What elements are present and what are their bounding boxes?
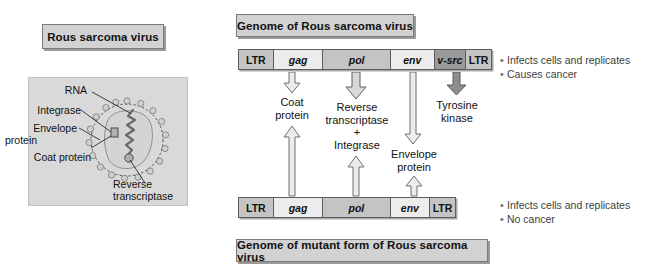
- pol-line2: transcriptase: [318, 114, 396, 127]
- virus-title-plaque: Rous sarcoma virus: [42, 24, 164, 49]
- src-line2: kinase: [426, 112, 488, 125]
- virion-label-envelope-protein-line2: protein: [5, 134, 77, 146]
- bullet-dot-icon: •: [500, 68, 507, 82]
- genome-segment-ltr: LTR: [239, 50, 274, 69]
- bullet-text: Infects cells and replicates: [507, 199, 630, 211]
- virion-label-rna: RNA: [27, 84, 87, 96]
- genome-segment-gag: gag: [274, 198, 323, 217]
- bullet-item: •Causes cancer: [500, 68, 630, 82]
- genome-segment-ltr: LTR: [430, 198, 455, 217]
- product-label-envelope-protein: Envelope protein: [383, 148, 445, 173]
- env-line1: Envelope: [383, 148, 445, 161]
- product-label-reverse-transcriptase: Reverse transcriptase + Integrase: [318, 101, 396, 151]
- coat-line1: Coat: [262, 96, 322, 109]
- arrow-down-pol: [345, 72, 367, 100]
- pol-line3: +: [318, 126, 396, 139]
- mutant-genome-title-plaque: Genome of mutant form of Rous sarcoma vi…: [236, 239, 488, 262]
- genome-segment-v-src: v-src: [435, 50, 467, 69]
- reverse-transcriptase-icon: [125, 154, 133, 162]
- virion-label-reverse-transcriptase-line2: transcriptase: [113, 190, 193, 202]
- env-line2: protein: [383, 161, 445, 174]
- mutant-genome-title-text: Genome of mutant form of Rous sarcoma vi…: [237, 239, 487, 263]
- product-label-tyrosine-kinase: Tyrosine kinase: [426, 99, 488, 124]
- pol-line1: Reverse: [318, 101, 396, 114]
- bullets-mutant: •Infects cells and replicates•No cancer: [500, 199, 630, 226]
- product-label-coat-protein: Coat protein: [262, 96, 322, 121]
- arrow-up-env-mutant: [405, 176, 423, 197]
- virus-title-text: Rous sarcoma virus: [47, 31, 159, 43]
- genome-segment-gag: gag: [274, 50, 324, 69]
- virion-label-envelope-protein-line1: Envelope: [5, 122, 77, 134]
- virion-label-coat-protein: Coat protein: [1, 151, 91, 163]
- bullet-item: •Infects cells and replicates: [500, 199, 630, 213]
- arrow-up-pol-mutant: [347, 156, 365, 197]
- bullet-item: •Infects cells and replicates: [500, 54, 630, 68]
- arrow-down-vsrc: [447, 72, 467, 96]
- bullets-wildtype: •Infects cells and replicates•Causes can…: [500, 54, 630, 81]
- genome-bar-wildtype: LTRgagpolenvv-srcLTR: [238, 49, 492, 70]
- genome-segment-pol: pol: [323, 50, 391, 69]
- genome-bar-mutant: LTRgagpolenvLTR: [238, 197, 456, 218]
- genome-segment-pol: pol: [323, 198, 390, 217]
- bullet-text: Causes cancer: [507, 68, 577, 80]
- genome-segment-env: env: [391, 198, 431, 217]
- genome-title-plaque: Genome of Rous sarcoma virus: [236, 14, 414, 37]
- bullet-text: Infects cells and replicates: [507, 54, 630, 66]
- genome-segment-env: env: [391, 50, 435, 69]
- bullet-item: •No cancer: [500, 213, 630, 227]
- bullet-dot-icon: •: [500, 213, 507, 227]
- bullet-dot-icon: •: [500, 54, 507, 68]
- genome-segment-ltr: LTR: [239, 198, 274, 217]
- virion-label-reverse-transcriptase-line1: Reverse: [113, 178, 193, 190]
- arrow-down-gag: [283, 72, 301, 94]
- genome-title-text: Genome of Rous sarcoma virus: [237, 20, 413, 32]
- virion-illustration-panel: RNA Integrase Envelope protein Coat prot…: [28, 77, 188, 206]
- figure-canvas: Rous sarcoma virus: [0, 0, 661, 267]
- arrow-up-gag-mutant: [283, 126, 301, 197]
- virion-label-integrase: Integrase: [5, 104, 81, 116]
- coat-line2: protein: [262, 109, 322, 122]
- bullet-dot-icon: •: [500, 199, 507, 213]
- genome-segment-ltr: LTR: [466, 50, 491, 69]
- bullet-text: No cancer: [507, 213, 555, 225]
- integrase-icon: [111, 128, 118, 137]
- src-line1: Tyrosine: [426, 99, 488, 112]
- arrow-down-env: [404, 72, 422, 145]
